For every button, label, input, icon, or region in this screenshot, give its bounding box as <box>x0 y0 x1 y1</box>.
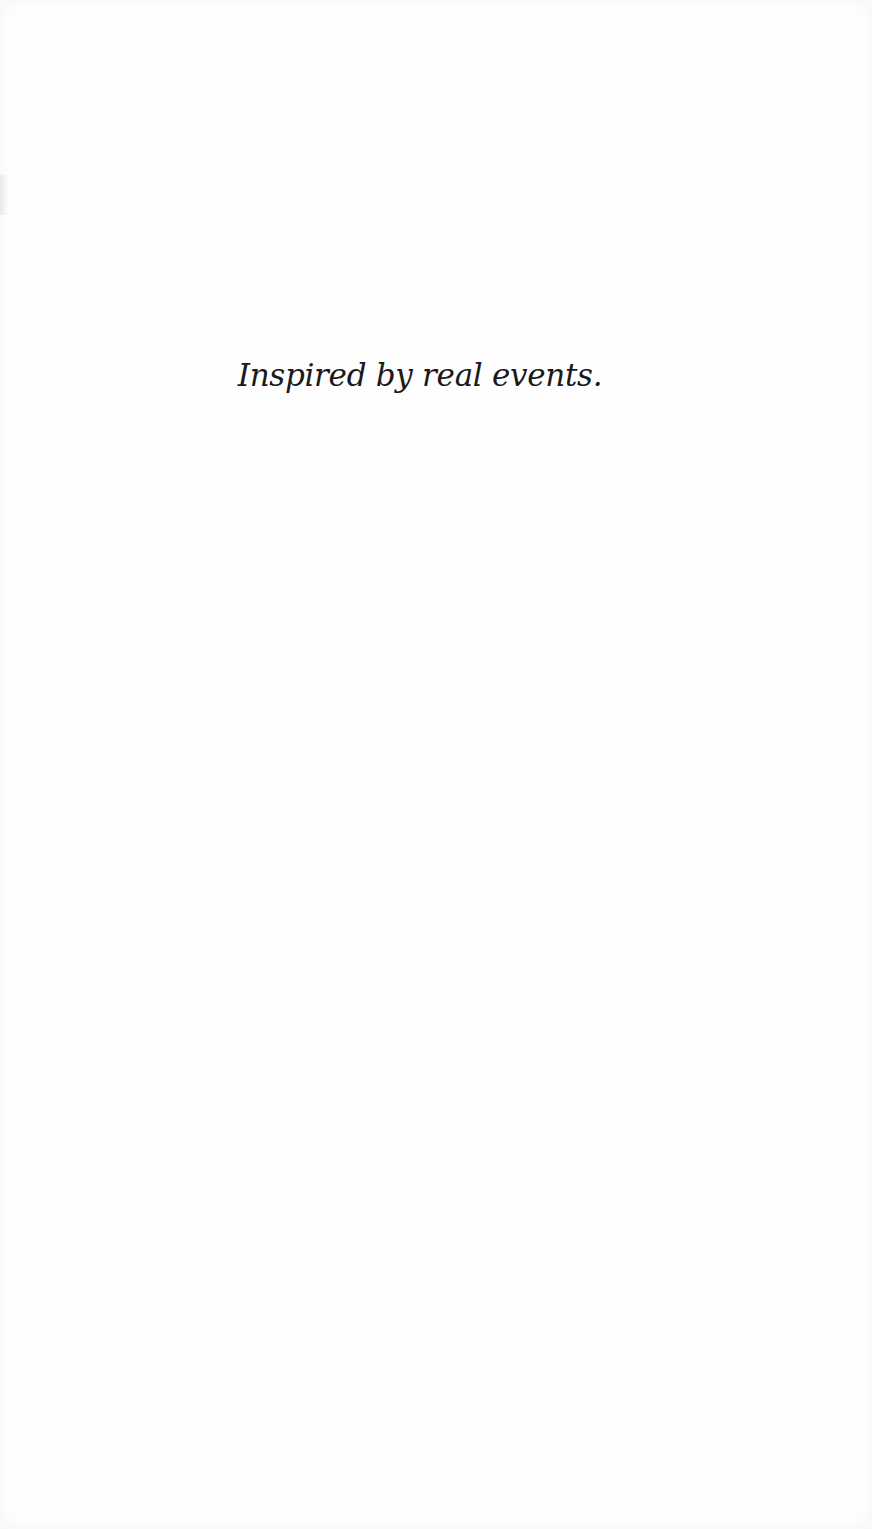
page-edge-shadow <box>0 175 8 215</box>
epigraph-text: Inspired by real events. <box>0 355 840 395</box>
book-page: Inspired by real events. <box>0 0 872 1529</box>
